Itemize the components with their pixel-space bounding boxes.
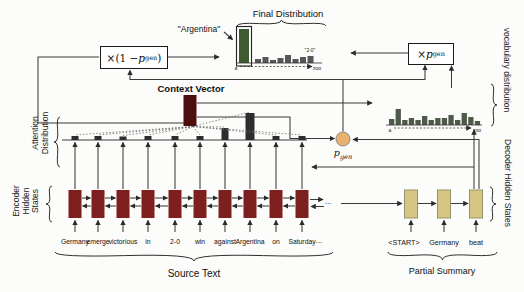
source-text-label: Source Text <box>168 268 221 279</box>
vocab-axis-left-label: a <box>389 127 392 133</box>
summary-word: beat <box>469 238 483 247</box>
encoder-state <box>219 190 232 218</box>
final-distribution-brace <box>237 20 326 26</box>
final-dist-bar <box>263 57 269 63</box>
attention-label-line2: Distribution <box>40 112 50 155</box>
formula-var: p <box>138 52 145 64</box>
encoder-decoder-ellipsis: ... <box>325 197 332 206</box>
pgen-label: pgen <box>334 147 352 161</box>
vocab-dist-bar <box>409 118 414 125</box>
attention-distribution-brace <box>54 117 60 167</box>
encoder-state <box>244 190 257 218</box>
source-ellipsis: ... <box>316 236 323 245</box>
attention-bar <box>95 136 102 140</box>
source-word: against <box>214 238 236 245</box>
source-word: win <box>195 238 205 245</box>
final-dist-bar <box>293 59 299 63</box>
vocab-dist-bar <box>429 120 434 125</box>
encoder-state <box>69 190 82 218</box>
connector-line <box>224 32 233 40</box>
vocab-dist-bar <box>455 120 460 125</box>
partial-summary-brace <box>388 252 497 260</box>
one-minus-pgen-box: ×(1 − pgen) <box>100 46 168 69</box>
final-distribution-label: Final Distribution <box>253 8 324 19</box>
encoder-label-line3: States <box>31 185 41 217</box>
pgen-node <box>336 132 350 146</box>
copy-token-label: "2-0" <box>305 47 316 53</box>
vocab-dist-bar <box>435 118 440 125</box>
connector-line <box>130 71 343 80</box>
attention-fan-line <box>175 127 193 136</box>
final-dist-bar <box>300 57 306 63</box>
vocab-dist-bar <box>442 118 447 125</box>
summary-word: <START> <box>388 238 419 247</box>
decoder-state <box>470 190 483 218</box>
attention-fan-line <box>148 127 193 136</box>
vocab-dist-bar <box>422 116 427 125</box>
encoder-state <box>169 190 182 218</box>
final-dist-bar <box>285 55 291 63</box>
source-word: Argentina <box>235 238 264 245</box>
vocab-dist-bar <box>402 120 407 125</box>
vocab-dist-bar <box>389 119 394 125</box>
vocab-dist-bar <box>462 113 467 125</box>
attention-bar <box>299 136 306 140</box>
connector-line <box>197 117 335 139</box>
source-word: Germany <box>61 238 89 245</box>
final-dist-bar <box>255 59 261 63</box>
source-word: Saturday <box>288 238 315 245</box>
argentina-callout: "Argentina" <box>178 24 220 34</box>
encoder-state <box>142 190 155 218</box>
final-dist-bar <box>308 56 314 63</box>
attention-label-line1: Attention <box>30 112 40 155</box>
final-dist-bar <box>270 60 276 63</box>
attention-fan-line <box>193 112 250 127</box>
final-axis-right-label: zoo <box>313 65 321 71</box>
attention-bar <box>273 136 280 140</box>
formula-prefix: ×(1 − <box>107 52 139 64</box>
encoder-state <box>117 190 130 218</box>
attention-fan-line <box>193 127 200 136</box>
encoder-state <box>92 190 105 218</box>
final-axis-left-label: a <box>235 65 238 71</box>
attention-bar <box>120 137 127 141</box>
vocab-dist-bar <box>448 115 453 125</box>
context-vector <box>184 95 197 126</box>
encoder-hidden-states-label: Encoder Hidden States <box>12 185 41 217</box>
formula-var: p <box>426 48 433 60</box>
source-word: emerge <box>86 238 109 245</box>
source-word: in <box>145 238 150 245</box>
pointer-generator-diagram: Final Distribution "Argentina" Context V… <box>0 0 524 292</box>
formula-sub: gen <box>433 50 445 58</box>
connector-line <box>353 140 479 190</box>
decoder-state <box>438 190 451 218</box>
vocab-axis-right-label: zoo <box>473 127 481 133</box>
attention-bar <box>72 136 79 140</box>
attention-fan-line <box>98 127 193 136</box>
decoder-states-brace <box>490 187 496 221</box>
partial-summary-label: Partial Summary <box>409 266 476 276</box>
formula-prefix: × <box>417 48 426 60</box>
attention-bar <box>246 113 255 140</box>
source-word: on <box>272 238 280 245</box>
source-text-brace <box>55 252 333 261</box>
final-highlight-bar <box>239 29 249 63</box>
vocab-dist-bar <box>475 121 480 125</box>
formula-suffix: ) <box>157 52 161 64</box>
decoder-hidden-states-label: Decoder Hidden States <box>503 139 513 227</box>
source-word: 2-0 <box>170 238 180 245</box>
attention-bar <box>145 136 152 140</box>
vocab-distribution-brace <box>491 84 497 126</box>
decoder-state <box>405 190 418 218</box>
vocab-dist-bar <box>396 109 401 125</box>
encoder-state <box>194 190 207 218</box>
connector-line <box>343 66 425 80</box>
source-word: victorious <box>109 238 138 245</box>
attention-bar <box>197 136 204 140</box>
encoder-states-brace <box>46 186 52 222</box>
encoder-state <box>296 190 309 218</box>
times-pgen-box: ×pgen <box>408 43 454 65</box>
vocabulary-distribution-label: vocabulary distribution <box>502 28 512 113</box>
pgen-sub: gen <box>340 153 352 161</box>
encoder-state <box>270 190 283 218</box>
